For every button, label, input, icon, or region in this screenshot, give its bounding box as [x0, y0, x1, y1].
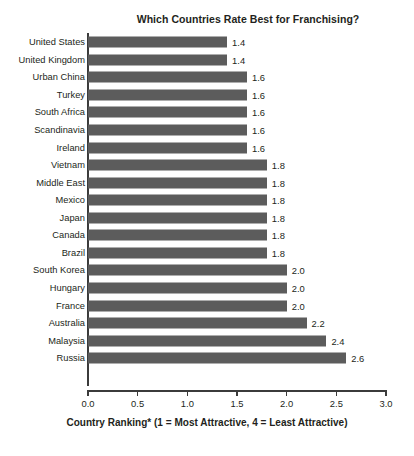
x-tick	[187, 390, 188, 396]
x-tick	[286, 390, 287, 396]
x-tick-label: 3.0	[379, 398, 392, 409]
bar	[88, 37, 227, 48]
bar-row: Russia2.6	[0, 349, 414, 367]
x-tick-label: 2.0	[280, 398, 293, 409]
bar	[88, 230, 267, 241]
category-label: France	[56, 301, 85, 311]
x-tick-label: 0.0	[81, 398, 94, 409]
bar-value-label: 2.0	[292, 265, 305, 276]
bar-row: Middle East1.8	[0, 174, 414, 192]
bar	[88, 89, 247, 100]
bar-row: South Africa1.6	[0, 104, 414, 122]
bar-row: United Kingdom1.4	[0, 51, 414, 69]
x-tick	[137, 390, 138, 396]
category-label: Vietnam	[51, 160, 85, 170]
bar-row: France2.0	[0, 297, 414, 315]
bar	[88, 107, 247, 118]
bar-row: South Korea2.0	[0, 262, 414, 280]
bar-value-label: 1.6	[252, 107, 265, 118]
bar-row: Canada1.8	[0, 227, 414, 245]
x-axis-title: Country Ranking* (1 = Most Attractive, 4…	[0, 417, 414, 428]
chart-figure: Which Countries Rate Best for Franchisin…	[0, 0, 414, 456]
category-label: Mexico	[55, 195, 85, 205]
x-tick-label: 0.5	[131, 398, 144, 409]
x-tick	[336, 390, 337, 396]
bar-row: Malaysia2.4	[0, 332, 414, 350]
category-label: United States	[29, 37, 85, 47]
bar-value-label: 1.4	[232, 54, 245, 65]
bar-row: Turkey1.6	[0, 86, 414, 104]
bar	[88, 54, 227, 65]
category-label: South Africa	[35, 107, 85, 117]
bar-value-label: 1.8	[272, 160, 285, 171]
bar-value-label: 1.8	[272, 195, 285, 206]
bar	[88, 353, 346, 364]
bar	[88, 282, 287, 293]
bar-value-label: 1.6	[252, 72, 265, 83]
category-label: Scandinavia	[34, 125, 85, 135]
bar	[88, 247, 267, 258]
bar	[88, 142, 247, 153]
bar-row: Hungary2.0	[0, 279, 414, 297]
bar-value-label: 2.0	[292, 300, 305, 311]
bar	[88, 72, 247, 83]
bar-value-label: 1.6	[252, 89, 265, 100]
category-label: South Korea	[33, 265, 85, 275]
x-tick-label: 1.0	[181, 398, 194, 409]
bar	[88, 160, 267, 171]
category-label: Turkey	[57, 90, 85, 100]
category-label: Malaysia	[48, 336, 85, 346]
bar	[88, 212, 267, 223]
bar-row: Australia2.2	[0, 314, 414, 332]
bar-row: Japan1.8	[0, 209, 414, 227]
bar-row: Urban China1.6	[0, 69, 414, 87]
x-tick-label: 1.5	[230, 398, 243, 409]
bar-value-label: 1.8	[272, 212, 285, 223]
category-label: Ireland	[56, 143, 85, 153]
bar-value-label: 2.4	[331, 335, 344, 346]
bar	[88, 177, 267, 188]
bar-row: Ireland1.6	[0, 139, 414, 157]
x-tick	[385, 390, 386, 396]
bar-row: Mexico1.8	[0, 191, 414, 209]
bar-value-label: 1.8	[272, 230, 285, 241]
category-label: Hungary	[50, 283, 85, 293]
bar-value-label: 2.2	[312, 318, 325, 329]
category-label: Australia	[49, 318, 85, 328]
bar-value-label: 1.4	[232, 37, 245, 48]
bar	[88, 318, 307, 329]
x-axis: 0.00.51.01.52.02.53.0	[0, 390, 414, 420]
category-label: Middle East	[36, 178, 85, 188]
category-label: Russia	[56, 353, 85, 363]
bar-value-label: 1.8	[272, 247, 285, 258]
category-label: Canada	[52, 230, 85, 240]
chart-title: Which Countries Rate Best for Franchisin…	[90, 13, 406, 25]
bar	[88, 335, 326, 346]
x-tick	[87, 390, 88, 396]
bar-value-label: 2.6	[351, 353, 364, 364]
bar-value-label: 1.8	[272, 177, 285, 188]
category-label: Brazil	[62, 248, 85, 258]
bar	[88, 195, 267, 206]
bar-value-label: 2.0	[292, 282, 305, 293]
bar-row: Vietnam1.8	[0, 156, 414, 174]
bar	[88, 125, 247, 136]
bar-value-label: 1.6	[252, 142, 265, 153]
category-label: Urban China	[33, 72, 85, 82]
x-tick	[236, 390, 237, 396]
bar-row: Brazil1.8	[0, 244, 414, 262]
bar	[88, 300, 287, 311]
plot-area: United States1.4United Kingdom1.4Urban C…	[0, 33, 414, 390]
category-label: Japan	[60, 213, 85, 223]
x-tick-label: 2.5	[330, 398, 343, 409]
bar-row: Scandinavia1.6	[0, 121, 414, 139]
category-label: United Kingdom	[19, 55, 85, 65]
bar-row: United States1.4	[0, 34, 414, 52]
bar-value-label: 1.6	[252, 125, 265, 136]
bar	[88, 265, 287, 276]
